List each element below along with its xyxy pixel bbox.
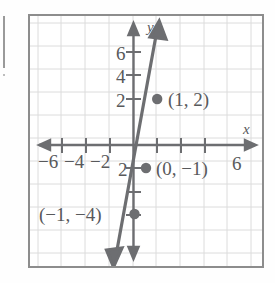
y-axis-top-arrowhead <box>129 23 139 35</box>
point-label-1-2: (1, 2) <box>168 90 209 109</box>
x-tick-label-neg2: −2 <box>90 152 110 171</box>
page-edge-artifact <box>3 16 5 68</box>
x-axis-label: x <box>243 122 250 137</box>
y-axis-label: y <box>147 20 154 35</box>
figure-canvas: 6 4 2 2 −6 −4 −2 6 y x (1, 2) (0, −1) (−… <box>0 0 275 283</box>
y-tick-label-2: 2 <box>116 91 126 110</box>
y-tick-label-neg2: 2 <box>118 160 128 179</box>
x-tick-label-6: 6 <box>232 154 242 173</box>
page-edge-artifact-dot <box>3 74 5 76</box>
y-tick-label-6: 6 <box>116 44 126 63</box>
x-axis-right-arrowhead <box>245 140 256 150</box>
x-tick-label-neg6: −6 <box>38 152 58 171</box>
point-label-0-neg1: (0, −1) <box>156 159 208 178</box>
y-axis-bottom-arrowhead <box>129 247 139 259</box>
point-1-2 <box>152 94 162 104</box>
point-0-neg1 <box>141 163 151 173</box>
y-tick-label-4: 4 <box>116 67 126 86</box>
plot-frame: 6 4 2 2 −6 −4 −2 6 y x (1, 2) (0, −1) (−… <box>28 14 264 268</box>
point-label-neg1-neg4: (−1, −4) <box>39 205 102 224</box>
point-neg1-neg4 <box>129 209 139 219</box>
grid-lines <box>30 16 262 266</box>
x-axis-left-arrowhead <box>39 140 50 150</box>
x-axis <box>39 140 256 150</box>
coordinate-plane-graphic <box>30 16 262 266</box>
x-tick-label-neg4: −4 <box>64 152 84 171</box>
